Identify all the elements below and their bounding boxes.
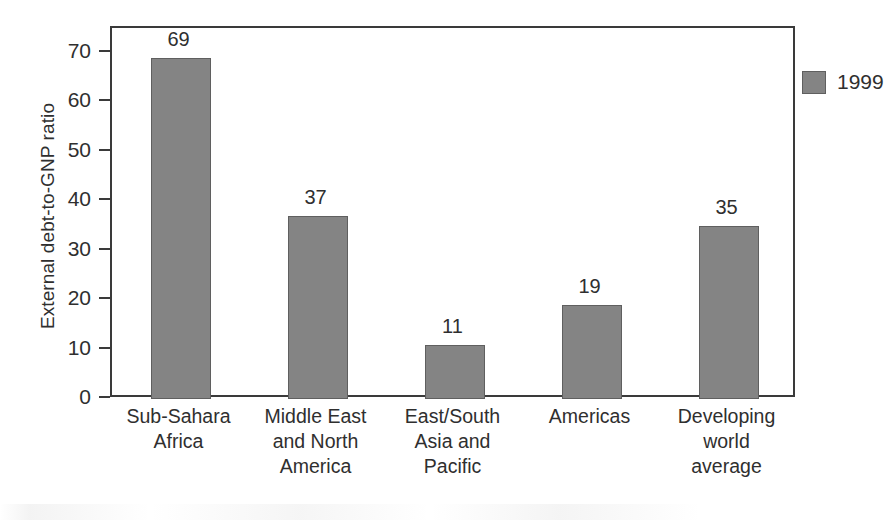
bar-1 [151, 58, 211, 399]
category-label-line: world [658, 429, 795, 454]
y-tick-mark [99, 347, 110, 349]
category-label-5: Developingworldaverage [658, 404, 795, 479]
y-tick-mark [99, 99, 110, 101]
y-tick-mark [99, 248, 110, 250]
legend-label-1999: 1999 [837, 70, 884, 94]
y-tick-label: 20 [11, 284, 91, 312]
bar-value-label-5: 35 [687, 196, 767, 219]
y-tick-label: 0 [11, 383, 91, 411]
y-tick-label: 40 [11, 185, 91, 213]
y-tick-mark [99, 396, 110, 398]
category-label-line: America [247, 454, 384, 479]
y-tick-mark [99, 297, 110, 299]
y-tick-label: 50 [11, 136, 91, 164]
category-label-line: Asia and [384, 429, 521, 454]
bar-value-label-4: 19 [550, 275, 630, 298]
bar-2 [288, 216, 348, 399]
legend-swatch-1999 [802, 71, 826, 94]
y-tick-label: 60 [11, 86, 91, 114]
bar-value-label-1: 69 [139, 28, 219, 51]
category-label-4: Americas [521, 404, 658, 429]
category-label-line: Middle East [247, 404, 384, 429]
bar-5 [699, 226, 759, 399]
category-label-1: Sub-SaharaAfrica [110, 404, 247, 454]
category-label-line: Sub-Sahara [110, 404, 247, 429]
y-tick-mark [99, 198, 110, 200]
category-label-line: Americas [521, 404, 658, 429]
category-label-line: Pacific [384, 454, 521, 479]
category-label-line: average [658, 454, 795, 479]
category-label-line: Developing [658, 404, 795, 429]
bar-value-label-3: 11 [413, 315, 493, 338]
scan-artifact [0, 504, 819, 520]
chart-legend: 1999 [802, 70, 884, 94]
category-label-line: Africa [110, 429, 247, 454]
y-tick-mark [99, 50, 110, 52]
category-label-3: East/SouthAsia andPacific [384, 404, 521, 479]
y-tick-mark [99, 149, 110, 151]
category-label-line: East/South [384, 404, 521, 429]
bar-3 [425, 345, 485, 399]
y-tick-label: 10 [11, 334, 91, 362]
y-tick-label: 70 [11, 37, 91, 65]
category-label-line: and North [247, 429, 384, 454]
bar-4 [562, 305, 622, 399]
bar-value-label-2: 37 [276, 186, 356, 209]
y-tick-label: 30 [11, 235, 91, 263]
category-label-2: Middle Eastand NorthAmerica [247, 404, 384, 479]
